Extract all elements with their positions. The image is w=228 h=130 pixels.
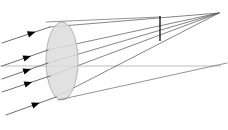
converging-lens-shape xyxy=(46,22,78,100)
ray-diagram-figure: Converging lens ray diagram xyxy=(0,0,228,130)
ray-diagram-canvas xyxy=(0,0,228,130)
figure-background xyxy=(0,0,228,130)
